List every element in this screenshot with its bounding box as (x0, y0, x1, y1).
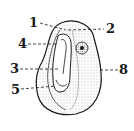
label-4: 4 (18, 37, 27, 50)
label-5: 5 (11, 83, 20, 96)
label-3: 3 (10, 62, 19, 75)
seed-diagram (0, 0, 134, 131)
label-2: 2 (106, 22, 115, 35)
label-8: 8 (119, 63, 128, 76)
germ-spot-center (80, 46, 84, 50)
label-1: 1 (29, 16, 38, 29)
